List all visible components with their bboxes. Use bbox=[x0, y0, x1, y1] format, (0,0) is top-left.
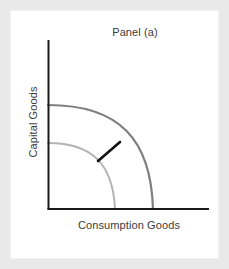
outward-shift-arrow-icon bbox=[98, 142, 120, 161]
ppf-curve-initial bbox=[48, 143, 115, 209]
page-title: Panel (a) bbox=[80, 26, 190, 38]
ppf-chart-figure: Panel (a) Consumption Goods Capital Good… bbox=[0, 0, 229, 269]
x-axis-label: Consumption Goods bbox=[48, 219, 210, 231]
y-axis-label: Capital Goods bbox=[27, 67, 39, 177]
ppf-curve-shifted bbox=[48, 105, 153, 209]
screenshot-root: Panel (a) Consumption Goods Capital Good… bbox=[0, 0, 229, 269]
